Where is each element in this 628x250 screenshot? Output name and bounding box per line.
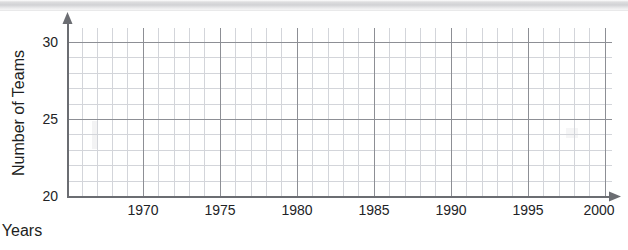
x-tick-label: 1970 [127, 203, 158, 217]
x-axis-title-text: Years [2, 222, 42, 239]
grid-major-horizontal [67, 43, 612, 120]
y-tick-label: 25 [42, 112, 58, 126]
x-tick-label: 1985 [358, 203, 389, 217]
x-tick-label: 1980 [281, 203, 312, 217]
x-tick-label: 1995 [512, 203, 543, 217]
y-axis-title: Number of Teams [10, 28, 28, 198]
scanned-chart-page: 1970 1975 1980 1985 1990 1995 2000 20 25… [0, 0, 628, 250]
y-tick-labels: 20 25 30 [0, 0, 58, 250]
y-tick-label: 30 [42, 35, 58, 49]
x-axis-title: Years [0, 222, 628, 240]
grid-major-vertical [144, 28, 606, 196]
x-tick-label: 1975 [204, 203, 235, 217]
x-tick-label: 1990 [435, 203, 466, 217]
y-tick-label: 20 [42, 189, 58, 203]
arrow-right-icon [609, 192, 621, 202]
x-tick-label: 2000 [583, 203, 614, 217]
arrow-up-icon [63, 12, 73, 24]
grid-minor-vertical [83, 28, 590, 196]
